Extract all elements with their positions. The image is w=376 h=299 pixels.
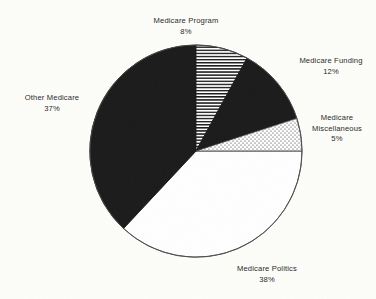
slice-label-name-line1: Medicare xyxy=(312,113,362,124)
slice-label-name: Medicare Politics xyxy=(237,264,297,275)
pie-chart-figure: Medicare Program 8% Medicare Funding 12%… xyxy=(0,0,376,299)
slice-label-medicare-politics: Medicare Politics 38% xyxy=(237,264,297,285)
slice-label-value: 12% xyxy=(299,67,362,78)
slice-label-value: 8% xyxy=(154,27,219,38)
slice-label-medicare-miscellaneous: Medicare Miscellaneous 5% xyxy=(312,113,362,145)
slice-label-name: Other Medicare xyxy=(25,93,79,104)
slice-label-medicare-program: Medicare Program 8% xyxy=(154,16,219,37)
slice-label-name: Medicare Funding xyxy=(299,56,362,67)
slice-label-name-line2: Miscellaneous xyxy=(312,124,362,135)
slice-label-other-medicare: Other Medicare 37% xyxy=(25,93,79,114)
slice-label-value: 37% xyxy=(25,104,79,115)
slice-label-name: Medicare Program xyxy=(154,16,219,27)
slice-label-medicare-funding: Medicare Funding 12% xyxy=(299,56,362,77)
pie-chart-svg xyxy=(0,0,376,299)
slice-label-value: 38% xyxy=(237,275,297,286)
slice-label-value: 5% xyxy=(312,134,362,145)
